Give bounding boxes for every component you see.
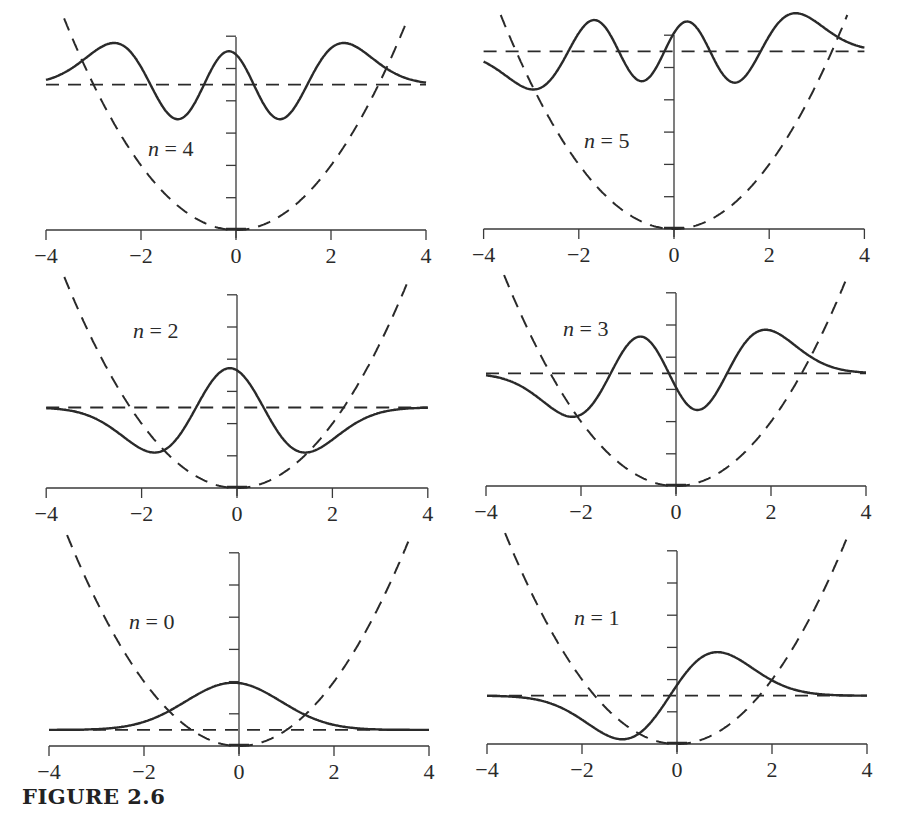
panel-n2: −4−2024n = 2 xyxy=(34,277,433,526)
x-tick-label: −2 xyxy=(129,243,152,268)
x-tick-label: −2 xyxy=(570,757,593,782)
x-tick-label: 2 xyxy=(767,757,778,782)
quantum-number-label: n = 3 xyxy=(563,316,608,341)
figure-caption: FIGURE 2.6 xyxy=(22,784,165,809)
x-tick-label: 0 xyxy=(671,499,682,524)
x-tick-label: 0 xyxy=(234,759,245,784)
x-tick-label: −4 xyxy=(34,243,57,268)
x-tick-label: 4 xyxy=(421,243,432,268)
x-tick-label: 2 xyxy=(764,242,775,267)
x-tick-label: −4 xyxy=(34,501,57,526)
x-tick-label: 0 xyxy=(232,501,243,526)
quantum-number-label: n = 5 xyxy=(584,128,629,153)
x-tick-label: −2 xyxy=(132,759,155,784)
x-tick-label: −4 xyxy=(472,242,495,267)
plot-panels: −4−2024n = 4−4−2024n = 5−4−2024n = 2−4−2… xyxy=(34,13,872,784)
panel-n3: −4−2024n = 3 xyxy=(474,275,871,524)
panel-n5: −4−2024n = 5 xyxy=(472,13,870,267)
x-tick-label: 2 xyxy=(326,243,337,268)
x-tick-label: 4 xyxy=(861,499,872,524)
x-tick-label: 4 xyxy=(422,501,433,526)
x-tick-label: −4 xyxy=(475,757,498,782)
x-tick-label: 0 xyxy=(669,242,680,267)
x-tick-label: 4 xyxy=(859,242,870,267)
x-tick-label: 0 xyxy=(672,757,683,782)
x-tick-label: 2 xyxy=(329,759,340,784)
x-tick-label: 4 xyxy=(424,759,435,784)
quantum-number-label: n = 2 xyxy=(133,318,178,343)
x-tick-label: −2 xyxy=(567,242,590,267)
x-tick-label: 2 xyxy=(327,501,338,526)
panel-n4: −4−2024n = 4 xyxy=(34,18,431,268)
x-tick-label: −4 xyxy=(37,759,60,784)
x-tick-label: 0 xyxy=(231,243,242,268)
quantum-number-label: n = 1 xyxy=(574,605,619,630)
x-tick-label: −4 xyxy=(474,499,497,524)
quantum-number-label: n = 0 xyxy=(129,609,174,634)
x-tick-label: 4 xyxy=(862,757,873,782)
quantum-number-label: n = 4 xyxy=(148,136,193,161)
panel-n1: −4−2024n = 1 xyxy=(475,533,872,782)
x-tick-label: −2 xyxy=(130,501,153,526)
harmonic-oscillator-figure: −4−2024n = 4−4−2024n = 5−4−2024n = 2−4−2… xyxy=(0,0,904,821)
x-tick-label: −2 xyxy=(569,499,592,524)
x-tick-label: 2 xyxy=(766,499,777,524)
panel-n0: −4−2024n = 0 xyxy=(37,535,434,784)
